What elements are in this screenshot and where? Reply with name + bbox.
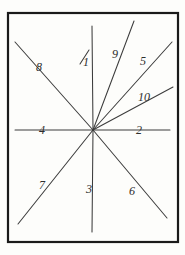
ray-1-label: 1: [83, 56, 89, 68]
ray-3: [92, 130, 93, 232]
ray-8-label: 8: [36, 61, 42, 73]
ray-8: [15, 42, 93, 130]
ray-2-label: 2: [136, 124, 142, 136]
ray-5-label: 5: [140, 55, 146, 67]
rays-diagram: [0, 0, 185, 255]
ray-10: [93, 87, 173, 130]
ray-4-label: 4: [39, 124, 45, 136]
ray-7-label: 7: [39, 179, 45, 191]
ray-9-label: 9: [112, 48, 118, 60]
ray-10-label: 10: [138, 91, 150, 103]
ray-5: [93, 42, 172, 130]
ray-6-label: 6: [129, 185, 135, 197]
ray-9: [93, 21, 134, 130]
figure-canvas: 12345678910: [0, 0, 185, 255]
ray-7: [18, 130, 93, 224]
ray-6: [93, 130, 167, 218]
ray-3-label: 3: [86, 183, 92, 195]
ray-1: [92, 26, 93, 130]
